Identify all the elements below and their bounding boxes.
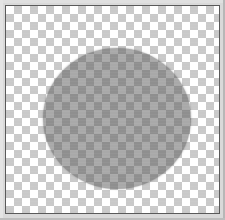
window-frame-right [223, 0, 225, 220]
window-frame-bottom [0, 218, 225, 220]
image-canvas[interactable] [5, 5, 220, 214]
window-frame-top [0, 0, 225, 3]
shape-layer[interactable] [6, 6, 219, 213]
app-window [0, 0, 225, 220]
window-frame-left [0, 0, 3, 220]
ellipse-shape[interactable] [43, 48, 191, 189]
